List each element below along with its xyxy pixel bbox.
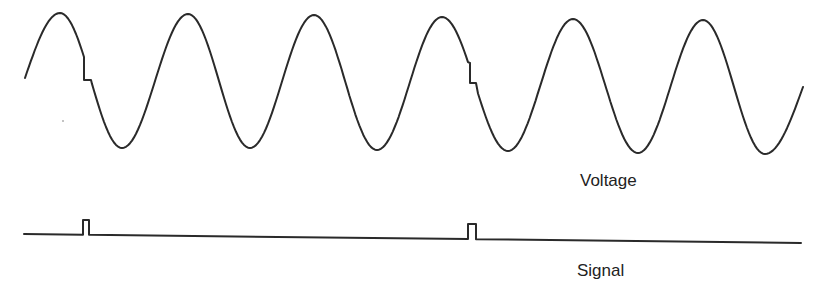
voltage-waveform [25,13,803,154]
voltage-label: Voltage [580,171,637,191]
signal-pulse-train [24,220,801,243]
waveform-diagram [0,0,824,300]
scan-artifact-dot [62,120,64,122]
signal-label: Signal [577,261,624,281]
